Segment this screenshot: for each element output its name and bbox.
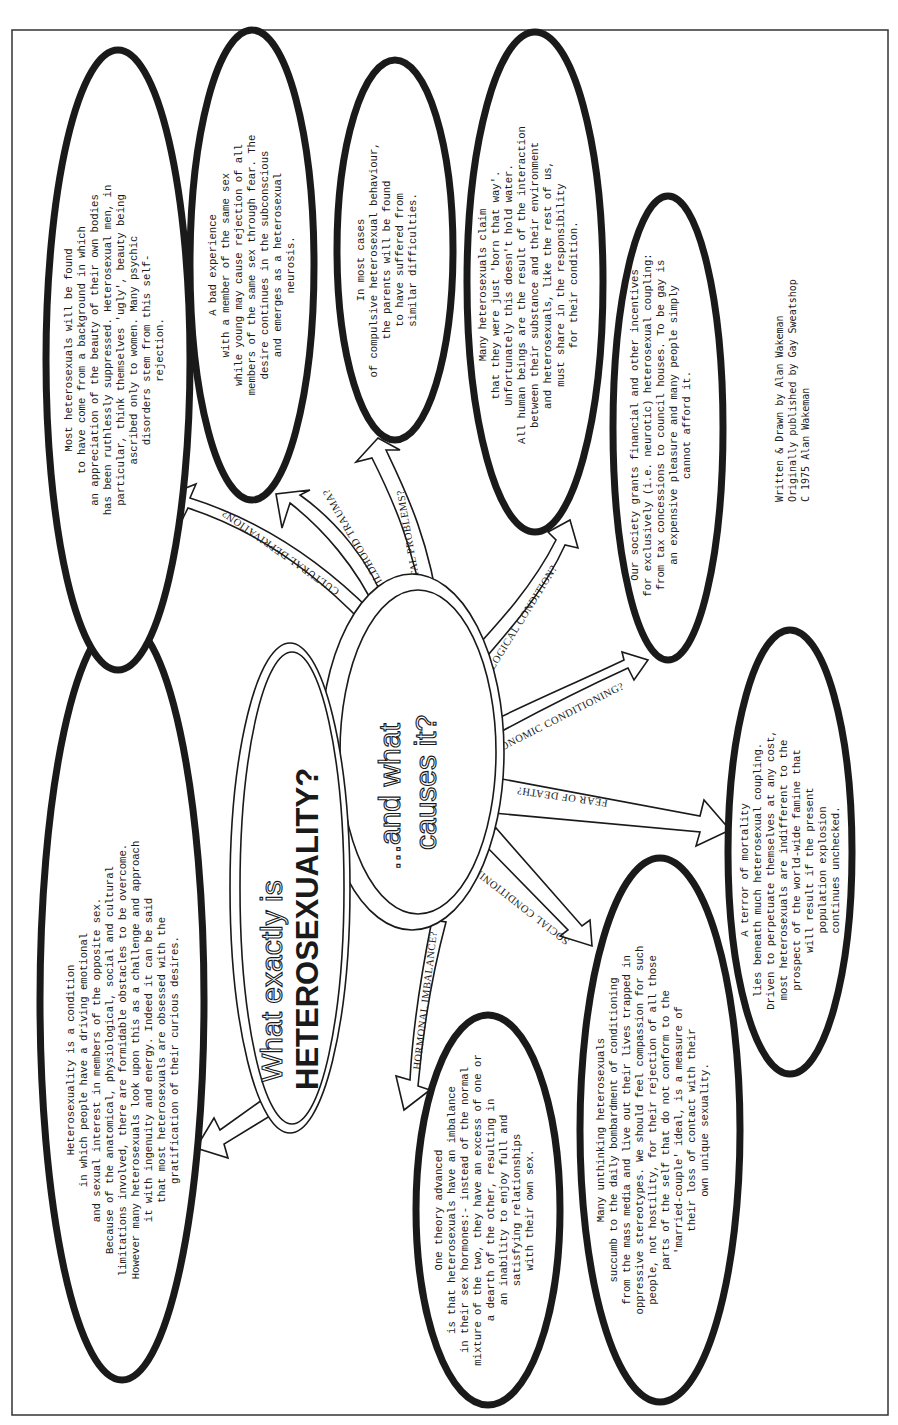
bubble-hormonal-imbalance: One theory advanced is that heterosexual… (416, 1015, 560, 1405)
svg-text:gratification of their curious: gratification of their curious desires. (169, 936, 181, 1184)
svg-text:Driven to perpetuate themselve: Driven to perpetuate themselves at any c… (765, 730, 777, 1010)
svg-text:A bad experience: A bad experience (207, 214, 219, 316)
svg-text:disorders stem from this self-: disorders stem from this self- (141, 255, 153, 446)
svg-text:particular, think themselves ': particular, think themselves 'ugly', bea… (115, 194, 127, 506)
svg-text:own unique sexuality.: own unique sexuality. (699, 1063, 711, 1197)
svg-text:in which people have a driving: in which people have a driving emotional (78, 933, 90, 1187)
bubble-cultural-deprivation: Most heterosexuals will be found to have… (46, 50, 190, 670)
label-hormonal-imbalance: HORMONAL IMBALANCE? (411, 930, 439, 1070)
svg-text:One theory advanced: One theory advanced (433, 1150, 445, 1271)
svg-text:rejection.: rejection. (154, 318, 166, 382)
svg-text:with their own sex.: with their own sex. (524, 1150, 536, 1271)
svg-text:satisfying relationships: satisfying relationships (511, 1134, 523, 1287)
svg-text:between their substance and th: between their substance and their enviro… (529, 142, 541, 428)
svg-text:ascribed only to women. Many: ascribed only to women. Many psychic (128, 236, 140, 465)
svg-text:However many heterosexuals loo: However many heterosexuals look upon thi… (130, 841, 142, 1280)
arrow-definition (196, 1100, 270, 1158)
title-bubble: What exactly is HETEROSEXUALITY? (230, 643, 350, 1133)
svg-text:from the mass media and live o: from the mass media and live out their l… (621, 955, 633, 1305)
title-line1: What exactly is (255, 880, 288, 1082)
svg-text:is that heterosexuals have an: is that heterosexuals have an imbalance (446, 1086, 458, 1334)
svg-text:of compulsive heterosexual beh: of compulsive heterosexual behaviour, (368, 142, 380, 377)
poster-canvas: CULTURAL DEPRIVATION? CHILDHOOD TRAUMA? … (0, 0, 898, 1425)
svg-text:lies beneath much heterosexual: lies beneath much heterosexual coupling. (752, 743, 764, 997)
svg-text:for exclusively (i.e. neurotic: for exclusively (i.e. neurotic) heterose… (642, 253, 654, 596)
credit-copyright: C 1975 Alan Wakeman (800, 388, 811, 502)
svg-text:and heterosexuals, like the re: and heterosexuals, like the rest of us, (542, 161, 554, 409)
svg-text:Most heterosexuals will be fou: Most heterosexuals will be found (63, 248, 75, 451)
bubble-pathological-condition: Many heterosexuals claim that they were … (467, 32, 603, 532)
svg-text:Our society grants financial a: Our society grants financial and other i… (629, 269, 641, 581)
svg-text:to have come from a background: to have come from a background in which (76, 226, 88, 474)
svg-text:with a member of the same sex: with a member of the same sex (220, 173, 232, 357)
svg-text:In most cases: In most cases (355, 219, 367, 302)
svg-text:has been ruthlessly suppressed: has been ruthlessly suppressed. Heterose… (102, 185, 114, 516)
svg-text:Heterosexuality is a condition: Heterosexuality is a condition (65, 965, 77, 1156)
svg-text:most heterosexuals are indiffe: most heterosexuals are indifferent to th… (778, 740, 790, 1001)
svg-text:their loss of contact with the: their loss of contact with their (686, 1028, 698, 1231)
svg-text:desire continues in the subcon: desire continues in the subconscious (259, 151, 271, 380)
bubble-fear-of-death: A terror of mortality lies beneath much … (728, 630, 852, 1074)
credits: Written & Drawn by Alan Wakeman Original… (774, 279, 811, 502)
svg-text:Because of the anatomical, phy: Because of the anatomical, physiological… (104, 866, 116, 1254)
svg-text:people, not hostility, for the: people, not hostility, for their rejecti… (647, 955, 659, 1305)
childhood-trauma-text: A bad experience with a member of the sa… (207, 135, 297, 396)
svg-text:All human beings are the resul: All human beings are the result of the i… (516, 126, 528, 444)
bubble-childhood-trauma: A bad experience with a member of the sa… (190, 30, 314, 500)
svg-text:the parents will be found: the parents will be found (381, 181, 393, 340)
svg-text:it with ingenuity and energy.: it with ingenuity and energy. Indeed it … (143, 898, 155, 1222)
svg-text:Many heterosexuals claim: Many heterosexuals claim (477, 209, 489, 362)
svg-text:'married-couple' ideal, is a m: 'married-couple' ideal, is a measure of (673, 1006, 685, 1254)
svg-text:an inability to enjoy full and: an inability to enjoy full and (498, 1115, 510, 1306)
svg-text:that they were just 'born that: that they were just 'born that way'. (490, 171, 502, 400)
bubble-parental-problems: In most cases of compulsive heterosexual… (337, 60, 453, 440)
credit-author: Written & Drawn by Alan Wakeman (774, 315, 785, 502)
svg-text:parts of the self that do not: parts of the self that do not conform to… (660, 990, 672, 1270)
svg-text:a dearth of the other, resulti: a dearth of the other, resulting in (485, 1099, 497, 1322)
svg-text:while young may cause rejectio: while young may cause rejection of all (233, 144, 245, 386)
svg-text:for their condition.: for their condition. (568, 221, 580, 348)
svg-text:mixture of the two, they have: mixture of the two, they have an excess … (472, 1054, 484, 1366)
svg-text:limitations involved, there ar: limitations involved, there are formidab… (117, 844, 129, 1276)
bubble-economic-conditioning: Our society grants financial and other i… (613, 196, 723, 660)
svg-text:oppressive stereotypes. We sh: oppressive stereotypes. We should feel c… (634, 946, 646, 1315)
svg-text:an appreciation of the beauty: an appreciation of the beauty of their o… (89, 194, 101, 506)
subtitle-line1: ...and what (373, 723, 406, 870)
svg-text:will result if the present: will result if the present (804, 787, 816, 952)
arrow-fear-of-death: FEAR OF DEATH? (482, 776, 730, 846)
svg-text:that most heterosexuals are ob: that most heterosexuals are obsessed wit… (156, 917, 168, 1203)
svg-text:and emerges as a heterosexual: and emerges as a heterosexual (272, 173, 284, 357)
bubble-social-conditioning: Many unthinking heterosexuals succumb to… (580, 858, 740, 1402)
svg-text:from tax concessions to counci: from tax concessions to council houses. … (655, 260, 667, 591)
credit-publisher: Originally published by Gay Sweatshop (787, 279, 798, 502)
svg-text:prospect of the world-wide fam: prospect of the world-wide famine that (791, 749, 803, 991)
svg-text:succumb to the daily bombardme: succumb to the daily bombardment of cond… (608, 977, 620, 1282)
svg-text:cannot afford it.: cannot afford it. (681, 371, 693, 479)
svg-text:members of the same sex throug: members of the same sex through fear. Th… (246, 135, 258, 396)
svg-text:population explosion: population explosion (817, 806, 829, 933)
svg-text:Many unthinking heterosexuals: Many unthinking heterosexuals (595, 1038, 607, 1222)
svg-text:neurosis.: neurosis. (285, 236, 297, 293)
svg-text:similar difficulties.: similar difficulties. (407, 193, 419, 327)
svg-text:must share in the responsibili: must share in the responsibility (555, 183, 567, 386)
bubble-definition: Heterosexuality is a condition in which … (40, 620, 204, 1380)
svg-text:A terror of mortality: A terror of mortality (739, 803, 751, 937)
svg-text:and sexual interest in members: and sexual interest in members of the op… (91, 898, 103, 1222)
svg-text:continues unchecked.: continues unchecked. (830, 806, 842, 933)
subtitle-line2: causes it? (409, 715, 442, 850)
title-line2: HETEROSEXUALITY? (290, 768, 325, 1090)
svg-text:to have suffered from: to have suffered from (394, 193, 406, 327)
svg-text:in their sex hormones:- inste: in their sex hormones:- instead of the n… (459, 1067, 471, 1353)
svg-text:Unfortunately this doesn't hol: Unfortunately this doesn't hold water. (503, 164, 515, 406)
svg-text:an expensive pleasure and many: an expensive pleasure and many people si… (668, 285, 680, 565)
